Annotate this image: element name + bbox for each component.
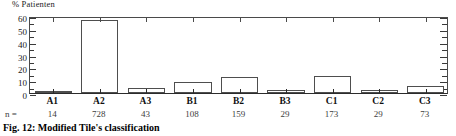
plot-area: 0102030405060 (29, 17, 448, 94)
x-axis-tick-bottom (240, 89, 241, 93)
x-axis-tick-bottom (286, 89, 287, 93)
y-axis-tick-major-right (440, 82, 447, 83)
y-axis-tick-minor (30, 37, 34, 38)
y-axis-tick-major: 40 (30, 44, 36, 45)
x-axis-tick-top (286, 18, 287, 22)
n-value: 29 (374, 110, 383, 119)
y-axis-tick-major-right (440, 18, 447, 19)
y-axis-tick-major-right (440, 95, 447, 96)
y-axis-tick-major-right (440, 44, 447, 45)
y-axis-tick-major-right (440, 57, 447, 58)
y-axis-tick-minor-right (442, 63, 447, 64)
x-axis-tick-bottom (379, 89, 380, 93)
n-value: 173 (325, 110, 339, 119)
figure-caption: Fig. 12: Modified Tile's classification (3, 122, 160, 133)
x-axis-tick-top (379, 18, 380, 22)
y-axis-tick-minor (30, 50, 34, 51)
y-axis-tick-minor (30, 63, 34, 64)
n-row-label: n = (5, 110, 17, 119)
y-axis-tick-label: 50 (18, 27, 27, 36)
n-value: 108 (185, 110, 199, 119)
y-axis-tick-minor-right (442, 24, 447, 25)
x-axis-tick-bottom (426, 89, 427, 93)
x-axis-category-label: C2 (372, 97, 384, 107)
x-axis-tick-top (146, 18, 147, 22)
y-axis-tick-major-right (440, 31, 447, 32)
y-axis-tick-minor-right (442, 37, 447, 38)
y-axis-tick-label: 0 (23, 92, 28, 101)
x-axis-tick-bottom (193, 89, 194, 93)
y-axis-tick-major: 0 (30, 95, 36, 96)
x-axis-category-label: B1 (186, 97, 197, 107)
n-value: 29 (281, 110, 290, 119)
y-axis-tick-label: 60 (18, 15, 27, 24)
x-axis-tick-top (100, 18, 101, 22)
n-value: 14 (48, 110, 57, 119)
x-axis-category-label: B3 (280, 97, 291, 107)
y-axis-tick-major: 60 (30, 18, 36, 19)
x-axis-tick-top (53, 18, 54, 22)
x-axis-tick-bottom (333, 89, 334, 93)
y-axis-title: % Patienten (12, 0, 55, 9)
bar-a2 (81, 20, 118, 93)
y-axis-tick-minor-right (442, 50, 447, 51)
y-axis-tick-label: 10 (18, 79, 27, 88)
x-axis-tick-top (333, 18, 334, 22)
x-axis-tick-bottom (100, 89, 101, 93)
n-value: 73 (420, 110, 429, 119)
y-axis-tick-major: 10 (30, 82, 36, 83)
y-axis-tick-label: 20 (18, 66, 27, 75)
x-axis-tick-bottom (53, 89, 54, 93)
n-value: 159 (232, 110, 246, 119)
x-axis-category-label: C3 (419, 97, 431, 107)
x-axis-category-label: A2 (93, 97, 105, 107)
y-axis-tick-major-right (440, 69, 447, 70)
y-axis-tick-major: 20 (30, 69, 36, 70)
y-axis-tick-minor (30, 24, 34, 25)
y-axis-tick-label: 40 (18, 40, 27, 49)
x-axis-tick-top (240, 18, 241, 22)
y-axis-tick-minor (30, 76, 34, 77)
y-axis-tick-label: 30 (18, 53, 27, 62)
n-value: 728 (92, 110, 106, 119)
figure-container: % Patienten 0102030405060 n = Fig. 12: M… (0, 0, 456, 136)
x-axis-tick-top (426, 18, 427, 22)
x-axis-tick-bottom (146, 89, 147, 93)
x-axis-category-label: B2 (233, 97, 244, 107)
x-axis-tick-top (193, 18, 194, 22)
y-axis-tick-minor-right (442, 76, 447, 77)
y-axis-tick-minor (30, 89, 34, 90)
x-axis-category-label: C1 (326, 97, 338, 107)
x-axis-category-label: A3 (140, 97, 152, 107)
y-axis-tick-major: 50 (30, 31, 36, 32)
x-axis-category-label: A1 (46, 97, 58, 107)
n-value: 43 (141, 110, 150, 119)
y-axis-tick-major: 30 (30, 57, 36, 58)
